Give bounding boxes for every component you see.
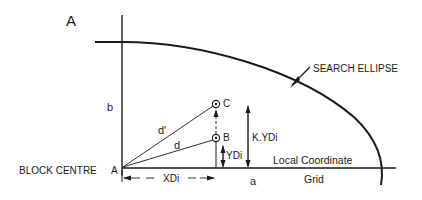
- ydi-label: YDi: [226, 150, 242, 161]
- point-c-dot-icon: [215, 103, 217, 105]
- search-ellipse-diagram: A SEARCH ELLIPSE b d′ d C B YDi K.YDi BL…: [0, 0, 422, 200]
- block-centre-label: BLOCK CENTRE: [19, 165, 97, 176]
- d-line: [123, 140, 213, 167]
- grid-label: Grid: [304, 173, 324, 185]
- point-b-label: B: [223, 132, 230, 143]
- d-prime-label: d′: [158, 124, 166, 136]
- local-coordinate-label: Local Coordinate: [273, 154, 353, 166]
- d-prime-line: [123, 106, 213, 167]
- point-b-dot-icon: [215, 137, 217, 139]
- search-ellipse-label: SEARCH ELLIPSE: [313, 63, 398, 74]
- b-axis-label: b: [107, 101, 113, 113]
- k-ydi-label: K.YDi: [252, 132, 278, 143]
- a-axis-label: a: [250, 175, 257, 187]
- d-label: d: [174, 139, 180, 151]
- panel-label: A: [66, 12, 76, 29]
- point-c-label: C: [223, 98, 230, 109]
- point-a-label: A: [111, 165, 118, 176]
- xdi-label: XDi: [163, 173, 179, 184]
